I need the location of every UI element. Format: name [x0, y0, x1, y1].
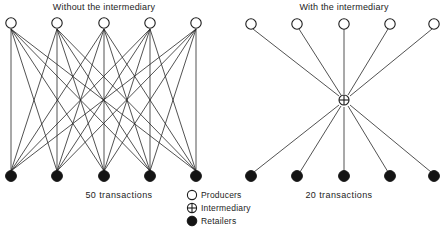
producer-node: [292, 19, 302, 29]
producer-node: [6, 18, 16, 28]
legend-label-producers: Producers: [201, 190, 242, 200]
producer-node: [246, 19, 256, 29]
producer-node: [52, 18, 62, 28]
producer-node: [339, 19, 349, 29]
retailer-node: [191, 171, 202, 182]
legend-item-retailers: Retailers: [187, 216, 236, 226]
panel-title-without-intermediary: Without the intermediary: [53, 2, 156, 12]
panel-title-with-intermediary: With the intermediary: [299, 2, 389, 12]
retailer-node: [52, 171, 63, 182]
retailer-node: [292, 171, 303, 182]
legend-item-producers: Producers: [187, 190, 241, 200]
open-circle-icon: [187, 190, 196, 199]
retailer-node: [429, 171, 440, 182]
channel-transactions-diagram: Without the intermediary: [0, 0, 442, 235]
caption-transactions-without-intermediary: 50 transactions: [85, 190, 152, 200]
producer-node: [145, 18, 155, 28]
caption-transactions-with-intermediary: 20 transactions: [305, 190, 372, 200]
filled-circle-icon: [187, 216, 197, 226]
producer-node: [191, 18, 201, 28]
producer-node: [99, 18, 109, 28]
legend-label-intermediary: Intermediary: [201, 203, 251, 213]
intermediary-node: [339, 95, 349, 105]
producer-node: [385, 19, 395, 29]
retailer-node: [145, 171, 156, 182]
legend-label-retailers: Retailers: [201, 216, 236, 226]
retailer-node: [99, 171, 110, 182]
retailer-node: [6, 171, 17, 182]
retailer-node: [246, 171, 257, 182]
retailer-node: [385, 171, 396, 182]
producer-node: [429, 19, 439, 29]
retailer-node: [339, 171, 350, 182]
